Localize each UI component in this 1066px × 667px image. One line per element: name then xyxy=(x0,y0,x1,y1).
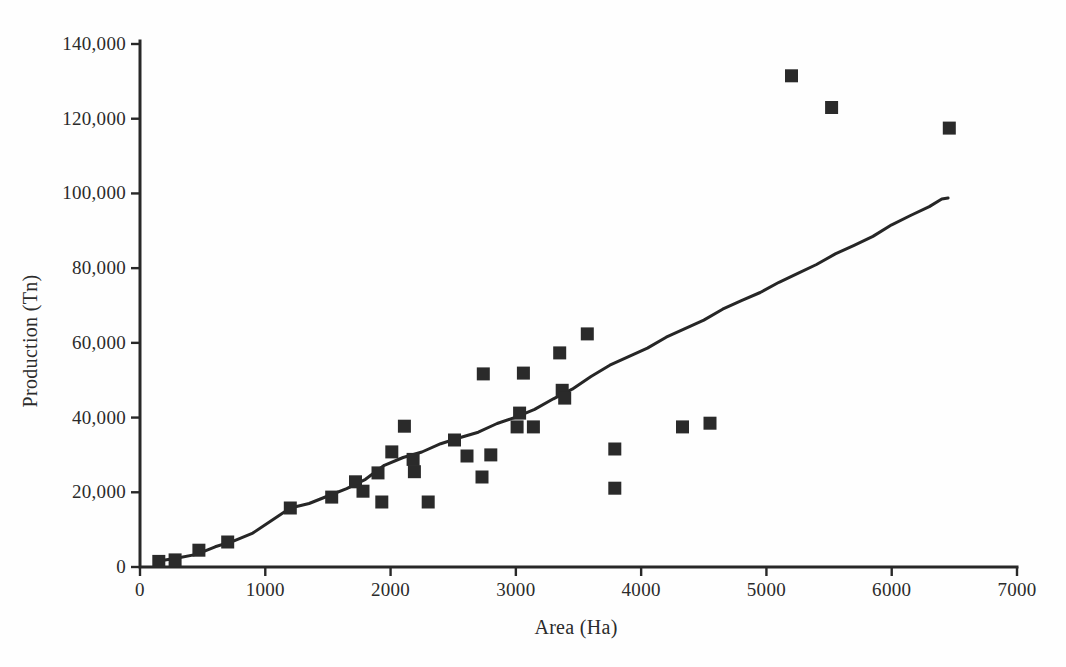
axes xyxy=(140,41,1017,567)
data-point-marker xyxy=(422,496,435,509)
y-tick-label: 40,000 xyxy=(72,407,126,428)
data-point-marker xyxy=(553,346,566,359)
data-point-marker xyxy=(608,482,621,495)
x-tick-label: 5000 xyxy=(747,579,786,600)
data-point-marker xyxy=(372,466,385,479)
data-point-marker xyxy=(608,443,621,456)
data-point-marker xyxy=(581,327,594,340)
y-tick-label: 140,000 xyxy=(62,33,126,54)
data-point-marker xyxy=(221,536,234,549)
y-tick-label: 100,000 xyxy=(62,182,126,203)
tick-marks xyxy=(131,44,1017,576)
data-point-marker xyxy=(511,420,524,433)
x-tick-label: 4000 xyxy=(622,579,661,600)
x-tick-label: 2000 xyxy=(371,579,410,600)
tick-labels: 01000200030004000500060007000020,00040,0… xyxy=(62,33,1036,600)
scatter-chart-figure: 01000200030004000500060007000020,00040,0… xyxy=(0,0,1066,667)
data-point-marker xyxy=(408,465,421,478)
data-point-marker xyxy=(527,420,540,433)
y-tick-label: 20,000 xyxy=(72,481,126,502)
data-point-marker xyxy=(676,420,689,433)
data-point-marker xyxy=(825,101,838,114)
data-point-marker xyxy=(169,553,182,566)
data-point-marker xyxy=(192,544,205,557)
data-point-marker xyxy=(477,367,490,380)
data-point-marker xyxy=(284,502,297,515)
x-tick-label: 1000 xyxy=(246,579,285,600)
data-point-marker xyxy=(448,434,461,447)
y-tick-label: 120,000 xyxy=(62,108,126,129)
y-tick-label: 60,000 xyxy=(72,332,126,353)
data-points-layer xyxy=(152,69,956,568)
y-tick-label: 80,000 xyxy=(72,257,126,278)
data-point-marker xyxy=(704,417,717,430)
data-point-marker xyxy=(407,453,420,466)
trend-line xyxy=(159,198,948,561)
production-vs-area-chart: 01000200030004000500060007000020,00040,0… xyxy=(0,0,1066,667)
x-tick-label: 7000 xyxy=(997,579,1036,600)
data-point-marker xyxy=(398,420,411,433)
axis-lines xyxy=(140,41,1017,567)
x-tick-label: 6000 xyxy=(872,579,911,600)
x-axis-title: Area (Ha) xyxy=(534,616,617,639)
x-tick-label: 0 xyxy=(135,579,145,600)
data-point-marker xyxy=(484,448,497,461)
trend-line-layer xyxy=(159,198,948,561)
data-point-marker xyxy=(461,450,474,463)
data-point-marker xyxy=(357,485,370,498)
data-point-marker xyxy=(476,471,489,484)
y-tick-label: 0 xyxy=(116,556,126,577)
data-point-marker xyxy=(513,407,526,420)
data-point-marker xyxy=(375,496,388,509)
data-point-marker xyxy=(517,367,530,380)
data-point-marker xyxy=(943,122,956,135)
data-point-marker xyxy=(558,392,571,405)
data-point-marker xyxy=(385,445,398,458)
y-axis-title: Production (Tn) xyxy=(19,275,42,408)
data-point-marker xyxy=(785,69,798,82)
data-point-marker xyxy=(152,555,165,568)
data-point-marker xyxy=(325,491,338,504)
x-tick-label: 3000 xyxy=(496,579,535,600)
